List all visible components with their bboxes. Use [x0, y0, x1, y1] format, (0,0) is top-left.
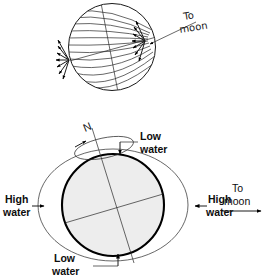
bottom-panel-group: N Low water Low water High water High wa…: [2, 120, 261, 277]
to-moon-label-bottom-line2: moon: [224, 195, 250, 207]
to-moon-label-top-line2: moon: [179, 20, 209, 35]
force-arrow-cluster-right: [132, 21, 145, 61]
high-water-right-label-line2: water: [205, 206, 233, 218]
force-arrow-cluster-left: [56, 40, 69, 79]
high-water-left-label-line1: High: [5, 193, 28, 205]
field-line: [85, 60, 158, 88]
force-arrow: [135, 41, 145, 55]
low-water-bottom-label-line2: water: [51, 265, 79, 277]
field-line: [67, 41, 148, 45]
to-moon-label-bottom-line1: To: [232, 182, 243, 194]
earth-body: [62, 154, 164, 256]
low-water-top-label-line1: Low: [140, 130, 162, 142]
top-panel-group: To moon: [56, 3, 208, 92]
north-pole-label: N: [81, 120, 93, 134]
high-water-left-label-line2: water: [2, 206, 30, 218]
force-arrow: [59, 60, 69, 74]
low-water-bottom-label-line1: Low: [54, 252, 76, 264]
tidal-diagram-canvas: To moon N Low water: [0, 0, 265, 279]
sphere-field-lines: [66, 3, 160, 92]
field-line: [69, 23, 149, 35]
force-arrow: [58, 46, 69, 60]
sphere-outline: [69, 4, 156, 91]
to-moon-label-top-line1: To: [182, 9, 195, 22]
low-water-top-label-line2: water: [139, 143, 167, 155]
tidal-diagram-figure: To moon N Low water: [0, 0, 265, 279]
